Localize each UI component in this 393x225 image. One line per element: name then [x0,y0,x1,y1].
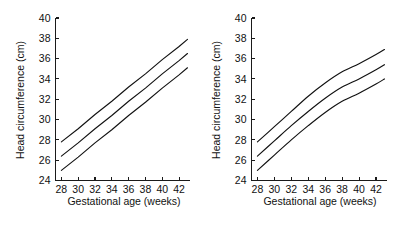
y-tick-label: 28 [235,134,247,146]
chart-panel-left: 242628303234363840 2830323436384042 Gest… [0,0,196,225]
y-tick-label: 28 [39,134,51,146]
x-tick-label: 42 [370,183,382,195]
y-tick-label: 30 [235,113,247,125]
left-axes [56,18,191,181]
x-tick-label: 40 [353,183,365,195]
right-y-tick-labels: 242628303234363840 [235,12,247,187]
left-y-tick-labels: 242628303234363840 [39,12,51,187]
y-tick-label: 26 [235,154,247,166]
x-tick-label: 28 [252,183,264,195]
centile-curve-lower [61,68,187,171]
x-tick-label: 36 [123,183,135,195]
y-tick-label: 30 [39,113,51,125]
right-x-tick-labels: 2830323436384042 [252,183,382,195]
centile-curve-upper [61,39,187,142]
right-curves [257,49,384,170]
left-x-axis-title: Gestational age (weeks) [67,195,180,207]
x-tick-label: 30 [72,183,84,195]
x-tick-label: 42 [173,183,185,195]
y-tick-label: 40 [39,12,51,24]
y-tick-label: 34 [235,73,247,85]
centile-curve-mean [257,65,384,156]
x-tick-label: 40 [156,183,168,195]
centile-curve-upper [257,49,384,141]
y-tick-label: 38 [39,32,51,44]
left-curves [61,39,187,170]
chart-panel-right: 242628303234363840 2830323436384042 Gest… [196,0,393,225]
x-tick-label: 32 [89,183,101,195]
y-tick-label: 40 [235,12,247,24]
x-tick-label: 34 [106,183,118,195]
right-axes [252,18,388,181]
x-tick-label: 38 [140,183,152,195]
y-tick-label: 32 [39,93,51,105]
y-tick-label: 26 [39,154,51,166]
x-tick-label: 28 [56,183,68,195]
x-tick-label: 38 [336,183,348,195]
x-tick-label: 36 [319,183,331,195]
left-x-tick-labels: 2830323436384042 [56,183,186,195]
x-tick-label: 32 [285,183,297,195]
y-tick-label: 38 [235,32,247,44]
right-y-axis-title: Head circumference (cm) [210,41,222,159]
y-tick-label: 24 [39,174,51,186]
x-tick-label: 30 [269,183,281,195]
right-x-axis-title: Gestational age (weeks) [263,195,376,207]
y-tick-label: 32 [235,93,247,105]
figure-container: 242628303234363840 2830323436384042 Gest… [0,0,393,225]
right-plot-svg: 242628303234363840 2830323436384042 Gest… [196,0,393,225]
y-tick-label: 36 [235,52,247,64]
y-tick-label: 24 [235,174,247,186]
x-tick-label: 34 [302,183,314,195]
y-tick-label: 34 [39,73,51,85]
y-tick-label: 36 [39,52,51,64]
centile-curve-mean [61,54,187,157]
left-y-axis-title: Head circumference (cm) [14,41,26,159]
left-plot-svg: 242628303234363840 2830323436384042 Gest… [0,0,196,225]
